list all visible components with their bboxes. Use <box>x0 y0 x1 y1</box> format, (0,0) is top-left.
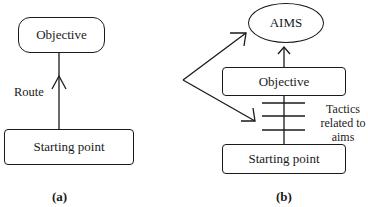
route-label: Route <box>14 85 44 99</box>
aims-ellipse: AIMS <box>248 3 324 43</box>
tactics-line-2: related to <box>318 116 368 130</box>
tactics-label: Tactics related to aims <box>318 102 368 144</box>
starting-point-box-a: Starting point <box>4 129 134 165</box>
objective-box-b: Objective <box>222 67 346 96</box>
objective-label-a: Objective <box>36 27 87 43</box>
objective-box-a: Objective <box>18 17 105 53</box>
tactics-line-3: aims <box>318 130 368 144</box>
starting-point-label-b: Starting point <box>248 151 319 167</box>
caption-a: (a) <box>52 189 67 205</box>
starting-point-label-a: Starting point <box>33 139 104 155</box>
objective-label-b: Objective <box>259 74 310 90</box>
tactics-line-1: Tactics <box>318 102 368 116</box>
aims-label: AIMS <box>270 15 303 31</box>
starting-point-box-b: Starting point <box>222 144 346 174</box>
caption-b: (b) <box>276 189 292 205</box>
